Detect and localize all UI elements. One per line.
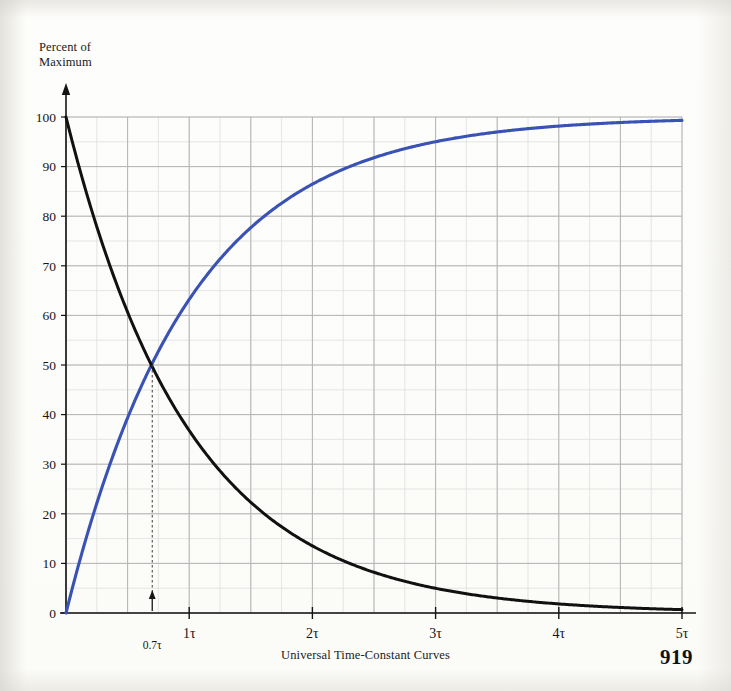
annotation-arrow-head [149, 590, 156, 599]
y-axis-ticks: 0102030405060708090100 [36, 110, 66, 621]
axis-lines [60, 83, 696, 613]
y-tick-label: 80 [43, 209, 57, 224]
x-tick-label: 1τ [183, 626, 196, 641]
y-tick-label: 60 [43, 308, 57, 323]
y-tick-label: 20 [43, 507, 57, 522]
y-tick-label: 10 [43, 556, 57, 571]
figure-caption: Universal Time-Constant Curves [0, 648, 731, 663]
x-tick-label: 2τ [306, 626, 319, 641]
y-tick-label: 70 [43, 259, 57, 274]
y-tick-label: 30 [43, 457, 57, 472]
x-tick-label: 5τ [676, 626, 689, 641]
figure-page: Percent of Maximum 010203040506070809010… [0, 0, 731, 691]
page-number: 919 [660, 645, 693, 670]
y-tick-label: 100 [36, 110, 57, 125]
annotation-group: 0.7τ [143, 365, 162, 651]
x-tick-label: 4τ [552, 626, 565, 641]
y-tick-label: 90 [43, 159, 57, 174]
y-tick-label: 50 [43, 358, 57, 373]
x-axis-ticks: 1τ2τ3τ4τ5τ [183, 607, 689, 641]
universal-time-constant-chart: 0102030405060708090100 1τ2τ3τ4τ5τ 0.7τ [0, 0, 731, 691]
y-tick-label: 40 [43, 407, 57, 422]
y-tick-label: 0 [49, 606, 56, 621]
x-tick-label: 3τ [429, 626, 442, 641]
